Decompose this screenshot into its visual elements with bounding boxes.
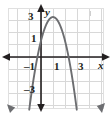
x-tick-label-1: 1 — [54, 61, 60, 72]
y-tick-label-3: 3 — [28, 11, 34, 22]
parabola-plot — [0, 0, 112, 117]
grid-lines — [9, 9, 104, 109]
y-tick-label-neg3: –3 — [24, 84, 35, 95]
x-tick-label-3: 3 — [78, 61, 84, 72]
y-tick-label-neg1: –1 — [24, 61, 35, 72]
y-axis-label: y — [45, 7, 50, 18]
graph-figure: 3 1 –1 –3 1 3 y x — [0, 0, 112, 117]
x-axis-label: x — [98, 60, 104, 71]
x-axis-left-arrow — [2, 53, 10, 61]
axis-lines — [4, 6, 108, 110]
y-tick-label-1: 1 — [31, 33, 37, 44]
